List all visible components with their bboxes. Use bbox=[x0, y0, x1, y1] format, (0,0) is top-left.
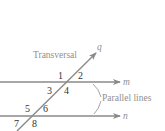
leader-to-m bbox=[93, 84, 101, 97]
angle-8-label: 8 bbox=[32, 118, 37, 129]
angle-4-label: 4 bbox=[64, 85, 69, 96]
transversal-label: Transversal bbox=[33, 50, 77, 60]
parallel-lines-diagram: m n q Transversal Parallel lines 1 2 3 4… bbox=[0, 0, 165, 131]
line-n-label: n bbox=[123, 111, 128, 121]
angle-5-label: 5 bbox=[25, 103, 30, 114]
transversal-line-q bbox=[17, 53, 96, 131]
angle-6-label: 6 bbox=[43, 103, 48, 114]
parallel-lines-label: Parallel lines bbox=[102, 93, 152, 103]
angle-1-label: 1 bbox=[58, 70, 63, 81]
angle-7-label: 7 bbox=[14, 118, 19, 129]
angle-3-label: 3 bbox=[47, 85, 52, 96]
line-q-label: q bbox=[97, 42, 102, 52]
line-m-label: m bbox=[123, 77, 130, 87]
leader-to-n bbox=[94, 101, 101, 114]
angle-2-label: 2 bbox=[78, 70, 83, 81]
